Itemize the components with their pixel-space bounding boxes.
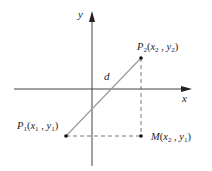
p1-label: P1(x1 , y1) (16, 120, 59, 133)
point-m (139, 134, 143, 138)
m-label: M(x2 , y1) (150, 131, 191, 144)
point-p1 (64, 134, 68, 138)
p2-label: P2(x2 , y2) (136, 41, 179, 54)
y-axis-arrow-icon (89, 11, 95, 22)
x-axis-label: x (181, 92, 187, 104)
segment-label: d (104, 70, 110, 82)
y-axis-label: y (77, 8, 83, 20)
point-p2 (139, 56, 143, 60)
distance-diagram: y x d P2(x2 , y2) P1(x1 , y1) M(x2 , y1) (0, 0, 212, 171)
